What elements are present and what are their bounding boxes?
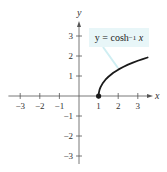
y-tick-label: 3 xyxy=(69,31,74,41)
y-tick-label: 2 xyxy=(69,51,74,61)
function-label-superscript: −1 xyxy=(129,34,136,42)
function-label-variable: x xyxy=(139,32,143,43)
y-axis-label: y xyxy=(76,7,82,18)
x-axis-label: x xyxy=(154,90,160,101)
x-tick-label: −1 xyxy=(55,101,65,111)
x-tick-label: 2 xyxy=(116,101,121,111)
curve-line xyxy=(99,58,148,97)
annotation-leader-line xyxy=(103,47,118,68)
chart-plot-area: xy −3−2−1123−3−2−1123 xyxy=(0,0,167,172)
y-tick-label: 1 xyxy=(69,71,74,81)
y-tick-label: −2 xyxy=(63,131,73,141)
leader-line xyxy=(103,47,118,68)
x-tick-label: −2 xyxy=(35,101,45,111)
function-label-prefix: y = cosh xyxy=(95,32,129,43)
y-axis-arrow-icon xyxy=(77,21,81,27)
y-tick-label: −1 xyxy=(63,111,73,121)
start-point-marker xyxy=(96,93,101,98)
x-tick-label: 3 xyxy=(136,101,141,111)
function-label: y = cosh−1 x xyxy=(89,28,149,47)
y-tick-label: −3 xyxy=(63,151,73,161)
x-axis-arrow-icon xyxy=(147,94,153,98)
curve-arccosh xyxy=(96,58,148,99)
x-tick-label: 1 xyxy=(96,101,101,111)
x-tick-label: −3 xyxy=(15,101,25,111)
